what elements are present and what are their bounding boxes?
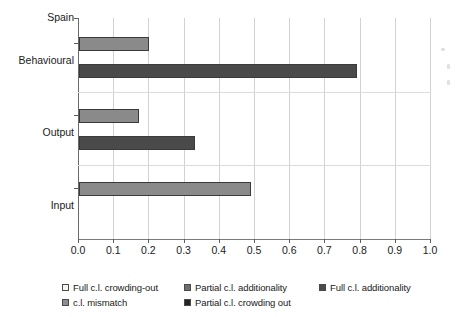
x-tick-label: 0.0 (71, 244, 86, 256)
x-tick-label: 0.5 (247, 244, 262, 256)
x-tick-label: 0.9 (387, 244, 402, 256)
y-tick (74, 18, 79, 19)
scan-artifact (447, 80, 450, 85)
gridline (113, 18, 114, 240)
gridline (148, 18, 149, 240)
bar (79, 136, 195, 150)
x-tick (254, 239, 255, 243)
x-tick (395, 239, 396, 243)
y-axis-line (78, 18, 79, 240)
x-tick-label: 0.1 (106, 244, 121, 256)
x-tick (360, 239, 361, 243)
gridline (289, 18, 290, 240)
y-label-output: Output (42, 127, 74, 138)
legend-label: Partial c.l. crowding out (195, 297, 291, 308)
gridline (184, 18, 185, 240)
x-tick-label: 0.4 (211, 244, 226, 256)
legend-swatch-icon (319, 284, 326, 291)
category-separator (78, 165, 431, 166)
legend-swatch-icon (184, 284, 191, 291)
legend-label: Partial c.l. additionality (195, 282, 287, 293)
bar (79, 182, 251, 196)
y-label-behavioural: Behavioural (19, 55, 74, 66)
x-axis-labels: 0.00.10.20.30.40.50.60.70.80.91.0 (78, 244, 431, 258)
x-tick (148, 239, 149, 243)
legend-swatch-icon (62, 299, 69, 306)
x-tick-label: 0.2 (141, 244, 156, 256)
legend-item[interactable]: c.l. mismatch (62, 296, 184, 309)
gridline (360, 18, 361, 240)
x-tick-label: 0.6 (282, 244, 297, 256)
gridline (430, 18, 431, 240)
category-separator (78, 92, 431, 93)
x-tick (184, 239, 185, 243)
y-axis-labels: Spain Behavioural Output Input (0, 18, 74, 240)
y-label-input: Input (51, 200, 74, 211)
scan-artifact (441, 48, 445, 51)
legend-label: Full c.l. crowding-out (73, 282, 158, 293)
x-tick (289, 239, 290, 243)
x-tick-label: 0.8 (352, 244, 367, 256)
chart-title: Spain (47, 12, 74, 23)
x-tick (78, 239, 79, 243)
legend-label: Full c.l. additionality (330, 282, 411, 293)
gridline (219, 18, 220, 240)
x-tick (324, 239, 325, 243)
plot-area (78, 18, 431, 240)
legend-label: c.l. mismatch (73, 297, 127, 308)
x-tick (430, 239, 431, 243)
bar (79, 64, 357, 78)
bar (79, 109, 139, 123)
gridline (324, 18, 325, 240)
x-tick-label: 0.3 (176, 244, 191, 256)
chart-legend: Full c.l. crowding-outPartial c.l. addit… (62, 281, 434, 309)
x-tick-label: 1.0 (423, 244, 438, 256)
x-tick (219, 239, 220, 243)
gridline (254, 18, 255, 240)
gridline (395, 18, 396, 240)
legend-swatch-icon (184, 299, 191, 306)
legend-item[interactable]: Full c.l. additionality (319, 281, 434, 294)
bar (79, 37, 149, 51)
x-tick-label: 0.7 (317, 244, 332, 256)
legend-spacer (319, 296, 434, 309)
legend-item[interactable]: Partial c.l. additionality (184, 281, 319, 294)
bar-chart: Spain Behavioural Output Input 0.00.10.2… (0, 0, 456, 317)
legend-swatch-icon (62, 284, 69, 291)
x-tick (113, 239, 114, 243)
legend-item[interactable]: Partial c.l. crowding out (184, 296, 319, 309)
legend-item[interactable]: Full c.l. crowding-out (62, 281, 184, 294)
scan-artifact (447, 64, 450, 69)
